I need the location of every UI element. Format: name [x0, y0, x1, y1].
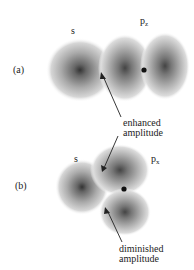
- s-label-a: s: [71, 26, 75, 36]
- s-label-b: s: [74, 154, 78, 164]
- orbital-diagram: [0, 0, 194, 270]
- px-label-b: px: [151, 154, 160, 166]
- annotation-line2: amplitude: [119, 254, 163, 264]
- p-subscript: z: [145, 20, 148, 28]
- nucleus-b: [121, 186, 126, 191]
- px-lobe-top-b: [90, 144, 150, 196]
- pz-lobe-right-a: [140, 32, 190, 100]
- panel-b-orbitals: [55, 136, 151, 242]
- panel-b-label: (b): [15, 181, 27, 191]
- panel-a-label: (a): [13, 65, 24, 75]
- annotation-line2: amplitude: [123, 128, 163, 138]
- nucleus-a: [141, 67, 146, 72]
- diminished-annotation-b: diminished amplitude: [119, 244, 163, 264]
- p-subscript: x: [156, 158, 160, 166]
- pz-label-a: pz: [140, 16, 148, 28]
- enhanced-annotation-a: enhanced amplitude: [123, 118, 163, 138]
- panel-a-orbitals: [46, 32, 190, 117]
